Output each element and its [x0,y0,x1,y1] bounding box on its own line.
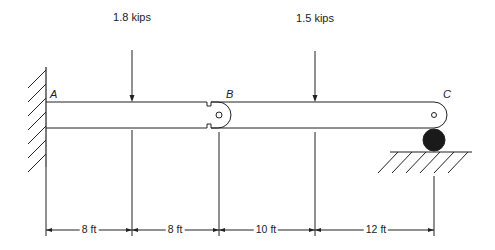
ground-hatching [378,152,468,173]
beam-segment-bc [211,102,447,128]
roller-support [423,129,445,151]
dimension-label-3: 10 ft [254,223,278,235]
dimension-label-1: 8 ft [80,223,99,235]
dimension-label-4: 12 ft [364,223,388,235]
beam-diagram: 1.8 kips 1.5 kips A B C 8 ft 8 ft 10 ft … [0,0,495,250]
load-label-2: 1.5 kips [296,12,334,24]
wall-hatching [28,70,46,172]
pin-c [432,113,437,118]
point-label-c: C [443,88,451,100]
load-label-1: 1.8 kips [113,11,151,23]
beam-segment-ab [46,102,231,128]
point-label-b: B [226,88,233,100]
diagram-graphics [0,0,495,250]
hinge-pin-b [216,112,222,118]
dimension-label-2: 8 ft [166,223,185,235]
point-label-a: A [50,88,57,100]
